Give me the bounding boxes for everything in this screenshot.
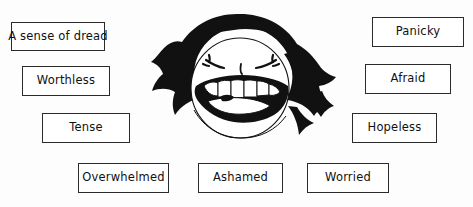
label-box-panicky[interactable]: Panicky bbox=[372, 17, 464, 47]
label-text: Worthless bbox=[37, 75, 95, 88]
label-box-tense[interactable]: Tense bbox=[42, 113, 130, 143]
label-text: Worried bbox=[325, 172, 371, 185]
label-box-worried[interactable]: Worried bbox=[307, 163, 389, 193]
label-text: Panicky bbox=[396, 26, 441, 39]
label-text: Hopeless bbox=[368, 122, 422, 135]
label-box-ashamed[interactable]: Ashamed bbox=[198, 163, 283, 193]
label-text: Tense bbox=[69, 122, 103, 135]
label-box-worthless[interactable]: Worthless bbox=[22, 66, 110, 96]
label-box-dread[interactable]: A sense of dread bbox=[11, 22, 105, 51]
label-box-overwhelmed[interactable]: Overwhelmed bbox=[78, 163, 169, 193]
label-box-hopeless[interactable]: Hopeless bbox=[352, 113, 437, 143]
label-text: Overwhelmed bbox=[82, 172, 164, 185]
screaming-face-illustration bbox=[148, 2, 338, 160]
diagram-canvas: A sense of dread Worthless Tense Overwhe… bbox=[0, 0, 473, 207]
label-box-afraid[interactable]: Afraid bbox=[365, 64, 451, 94]
label-text: Afraid bbox=[391, 73, 426, 86]
label-text: Ashamed bbox=[213, 172, 268, 185]
label-text: A sense of dread bbox=[8, 30, 108, 43]
